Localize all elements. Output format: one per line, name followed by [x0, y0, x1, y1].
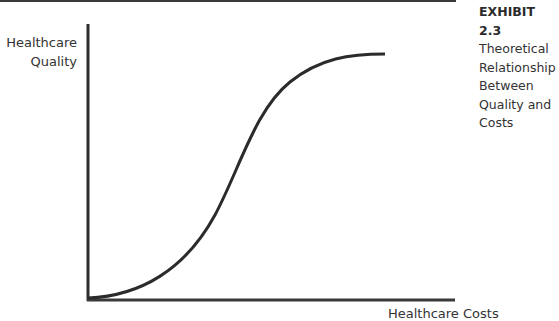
x-axis-label: Healthcare Costs [388, 306, 499, 321]
caption-line-5: Costs [479, 114, 559, 133]
caption-line-2: Relationship [479, 59, 559, 78]
caption-line-1: Theoretical [479, 40, 559, 59]
exhibit-caption: EXHIBIT 2.3 Theoretical Relationship Bet… [479, 3, 559, 133]
caption-line-3: Between [479, 77, 559, 96]
caption-line-4: Quality and [479, 96, 559, 115]
exhibit-number: EXHIBIT 2.3 [479, 3, 559, 40]
quality-cost-curve [88, 54, 385, 298]
